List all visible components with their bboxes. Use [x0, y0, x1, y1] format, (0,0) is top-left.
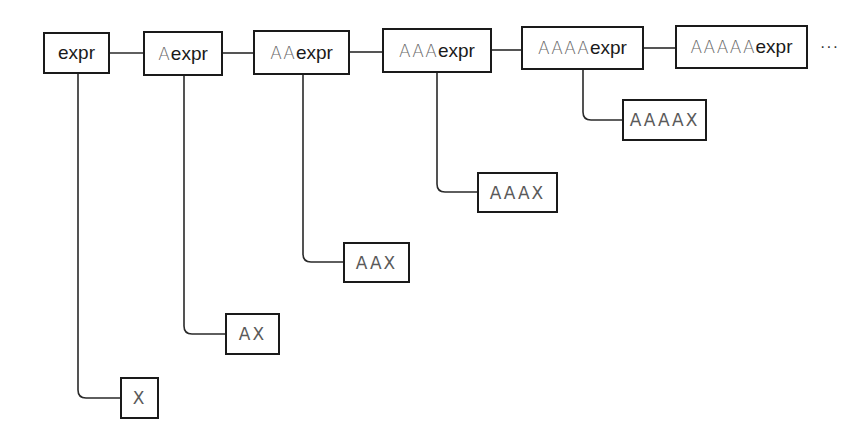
branch-connector-aax [303, 75, 343, 262]
branch-connector-x [78, 73, 120, 398]
leaf-node-aaax: AAAX [477, 172, 558, 213]
node-suffix: expr [590, 37, 627, 59]
node-prefix: AA [270, 43, 296, 63]
leaf-node-aax: AAX [343, 242, 410, 283]
expr-node-5: AAAAAexpr [675, 25, 808, 69]
expr-node-4: AAAAexpr [521, 26, 644, 70]
leaf-node-x: X [120, 377, 159, 419]
node-suffix: expr [438, 40, 475, 62]
branch-connector-aaax [437, 73, 477, 192]
branch-connector-aaaax [583, 70, 622, 120]
expr-node-3: AAAexpr [382, 28, 492, 73]
expr-node-2: AAexpr [253, 30, 350, 75]
node-prefix: AAAAA [690, 37, 755, 57]
node-suffix: expr [756, 36, 793, 58]
branch-connector-ax [184, 76, 225, 334]
node-suffix: expr [171, 43, 208, 65]
continuation-ellipsis: ··· [820, 38, 839, 56]
node-suffix: expr [296, 42, 333, 64]
leaf-node-ax: AX [225, 313, 280, 355]
node-prefix: AAA [399, 41, 438, 61]
node-prefix: AAAA [538, 38, 590, 58]
node-suffix: expr [58, 42, 95, 64]
node-prefix: A [158, 44, 171, 64]
leaf-node-aaaax: AAAAX [622, 99, 707, 141]
expr-node-0: expr [43, 32, 110, 74]
expr-node-1: Aexpr [143, 31, 223, 76]
